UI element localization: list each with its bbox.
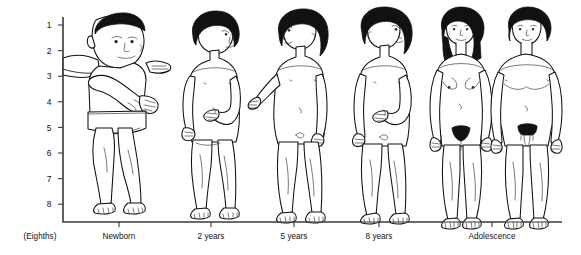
y-tick-label: 6 bbox=[47, 148, 52, 158]
y-tick-label: 2 bbox=[47, 46, 52, 56]
x-tick-label: 2 years bbox=[198, 232, 225, 241]
x-tick-label: Newborn bbox=[103, 232, 136, 241]
body-proportions-diagram: 12345678 Newborn2 years5 years8 yearsAdo… bbox=[0, 0, 581, 255]
y-tick-label: 8 bbox=[47, 199, 52, 209]
y-tick-label: 4 bbox=[47, 97, 52, 107]
y-tick-label: 1 bbox=[47, 20, 52, 30]
eighths-unit-label: (Eighths) bbox=[24, 232, 57, 241]
x-tick-label: 5 years bbox=[281, 232, 308, 241]
x-tick-label: 8 years bbox=[366, 232, 393, 241]
chart-canvas: 12345678 Newborn2 years5 years8 yearsAdo… bbox=[0, 0, 581, 255]
y-tick-label: 3 bbox=[47, 71, 52, 81]
x-tick-label: Adolescence bbox=[469, 232, 516, 241]
y-tick-label: 5 bbox=[47, 123, 52, 133]
y-tick-label: 7 bbox=[47, 174, 52, 184]
